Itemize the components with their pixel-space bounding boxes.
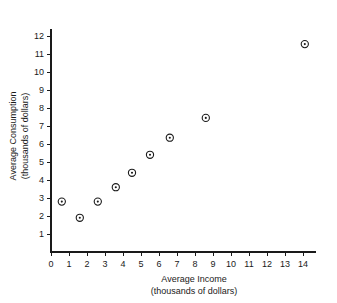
x-tick-label: 4 xyxy=(120,259,125,269)
y-axis-title: Average Consumption xyxy=(8,92,18,181)
y-tick-label: 8 xyxy=(39,103,44,113)
x-tick-label: 2 xyxy=(84,259,89,269)
y-tick-label: 7 xyxy=(39,121,44,131)
x-tick-label: 13 xyxy=(280,259,290,269)
y-tick-label: 12 xyxy=(34,31,44,41)
marker-center-dot xyxy=(79,217,81,219)
x-tick-label: 10 xyxy=(226,259,236,269)
marker-center-dot xyxy=(97,201,99,203)
x-axis-title: Average Income xyxy=(161,274,226,284)
x-axis-tick-labels: 01234567891011121314 xyxy=(48,259,308,269)
x-tick-label: 0 xyxy=(48,259,53,269)
y-tick-label: 9 xyxy=(39,85,44,95)
x-tick-label: 5 xyxy=(138,259,143,269)
x-tick-label: 6 xyxy=(156,259,161,269)
data-point xyxy=(202,114,209,121)
x-tick-label: 9 xyxy=(210,259,215,269)
y-tick-label: 1 xyxy=(39,229,44,239)
x-tick-label: 11 xyxy=(244,259,253,269)
scatter-plot-figure: 01234567891011121314 123456789101112 Ave… xyxy=(0,0,337,303)
x-tick-label: 14 xyxy=(298,259,308,269)
x-tick-label: 1 xyxy=(66,259,71,269)
y-tick-label: 6 xyxy=(39,139,44,149)
x-tick-label: 7 xyxy=(174,259,179,269)
data-point xyxy=(166,134,173,141)
y-tick-label: 5 xyxy=(39,157,44,167)
plot-canvas: 01234567891011121314 123456789101112 Ave… xyxy=(0,0,337,303)
marker-center-dot xyxy=(205,117,207,119)
data-point-markers xyxy=(58,41,308,222)
data-point xyxy=(94,198,101,205)
axes-group xyxy=(51,29,316,252)
marker-center-dot xyxy=(169,137,171,139)
x-tick-label: 12 xyxy=(262,259,272,269)
data-point xyxy=(76,214,83,221)
y-tick-label: 3 xyxy=(39,193,44,203)
data-point xyxy=(58,198,65,205)
y-tick-label: 10 xyxy=(34,67,44,77)
y-axis-subtitle: (thousands of dollars) xyxy=(20,93,30,180)
x-axis-subtitle: (thousands of dollars) xyxy=(151,286,238,296)
y-axis-tick-labels: 123456789101112 xyxy=(34,31,44,239)
marker-center-dot xyxy=(61,201,63,203)
y-tick-label: 2 xyxy=(39,211,44,221)
data-point xyxy=(128,169,135,176)
marker-center-dot xyxy=(149,154,151,156)
marker-center-dot xyxy=(115,186,117,188)
axis-lines xyxy=(51,29,316,252)
x-tick-label: 3 xyxy=(102,259,107,269)
marker-center-dot xyxy=(304,43,306,45)
marker-center-dot xyxy=(131,172,133,174)
data-point xyxy=(112,184,119,191)
x-tick-label: 8 xyxy=(192,259,197,269)
y-tick-label: 11 xyxy=(35,49,44,59)
data-point xyxy=(301,41,308,48)
data-point xyxy=(146,151,153,158)
y-tick-label: 4 xyxy=(39,175,44,185)
